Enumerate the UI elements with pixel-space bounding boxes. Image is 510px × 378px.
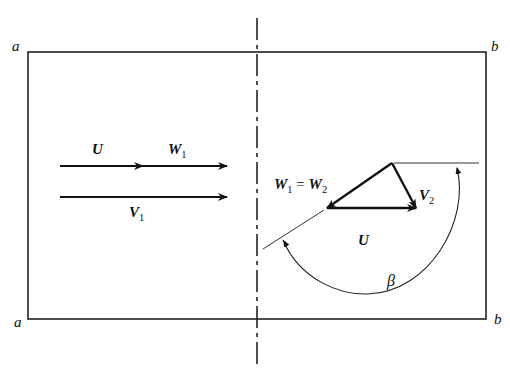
corner-label-top-right: b <box>491 38 499 55</box>
arrow-V2 <box>392 163 416 208</box>
label-V1-left: V1 <box>129 204 144 223</box>
label-U-right: U <box>358 232 369 249</box>
label-W1-equals-W2: W1 = W2 <box>274 176 327 195</box>
blade-angle-line <box>263 210 324 249</box>
corner-label-top-left: a <box>12 38 20 55</box>
label-U-left: U <box>92 141 103 158</box>
label-W1-left: W1 <box>168 141 187 160</box>
corner-label-bottom-left: a <box>14 314 22 331</box>
arrow-W <box>327 163 392 208</box>
label-beta: β <box>387 272 395 290</box>
label-V2: V2 <box>419 187 434 206</box>
corner-label-bottom-right: b <box>494 311 502 328</box>
